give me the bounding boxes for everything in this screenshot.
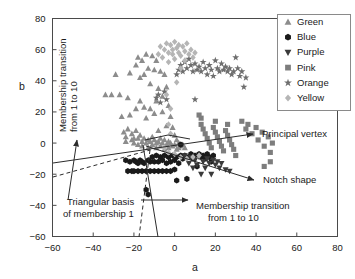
- notch-shape-label: Notch shape: [263, 174, 316, 185]
- y-tick-label: 0: [40, 138, 45, 149]
- data-point: [213, 130, 218, 135]
- data-point: [225, 122, 230, 127]
- data-point: [223, 128, 228, 133]
- membership-transition-bottom-line2: from 1 to 10: [208, 212, 259, 223]
- triangular-basis-line2: of membership 1: [63, 208, 134, 219]
- y-tick-label: −60: [29, 231, 45, 242]
- y-tick-label: 20: [35, 106, 46, 117]
- triangular-basis-line1: Triangular basis: [67, 196, 134, 207]
- y-tick-label: 80: [35, 13, 46, 24]
- x-tick-label: −20: [126, 242, 142, 253]
- data-point: [219, 144, 224, 149]
- data-point: [231, 147, 236, 152]
- legend-label-orange: Orange: [297, 77, 329, 88]
- principal-vertex-label: Principal vertex: [262, 128, 327, 139]
- data-point: [262, 144, 267, 149]
- data-point: [209, 145, 214, 150]
- x-axis-title: a: [192, 261, 198, 273]
- data-point: [262, 164, 267, 169]
- data-point: [201, 127, 206, 132]
- x-tick-label: 80: [332, 242, 343, 253]
- membership-transition-left-line2: from 1 to 10: [68, 81, 79, 132]
- data-point: [254, 125, 259, 130]
- legend-label-purple: Purple: [297, 46, 324, 57]
- data-point: [229, 142, 234, 147]
- y-axis-title: b: [19, 80, 25, 92]
- data-point: [227, 137, 232, 142]
- data-point: [199, 122, 204, 127]
- data-point: [221, 148, 226, 153]
- y-tick-label: 40: [35, 75, 46, 86]
- data-point: [268, 150, 273, 155]
- data-point: [270, 141, 275, 146]
- data-point: [245, 122, 250, 127]
- legend-label-blue: Blue: [297, 31, 316, 42]
- x-tick-label: 60: [291, 242, 302, 253]
- legend-marker-pink: [285, 65, 291, 71]
- legend[interactable]: GreenBluePurplePinkOrangeYellow: [278, 15, 351, 111]
- x-tick-label: 0: [172, 242, 177, 253]
- y-tick-label: −20: [29, 169, 45, 180]
- data-point: [256, 137, 261, 142]
- legend-label-yellow: Yellow: [297, 92, 324, 103]
- legend-label-green: Green: [297, 16, 323, 27]
- data-point: [207, 141, 212, 146]
- data-point: [243, 127, 248, 132]
- data-point: [217, 139, 222, 144]
- data-point: [239, 119, 244, 124]
- data-point: [213, 119, 218, 124]
- membership-transition-bottom-line1: Membership transition: [196, 200, 289, 211]
- x-tick-label: 20: [210, 242, 221, 253]
- x-tick-label: 40: [251, 242, 262, 253]
- x-tick-label: −40: [85, 242, 101, 253]
- data-point: [203, 131, 208, 136]
- y-tick-label: 60: [35, 44, 46, 55]
- chart-canvas: −60−40−20020406080 −60−40−20020406080 a …: [0, 0, 355, 279]
- data-point: [233, 153, 238, 158]
- data-point: [199, 116, 204, 121]
- x-tick-label: −60: [44, 242, 60, 253]
- data-point: [268, 159, 273, 164]
- y-tick-label: −40: [29, 200, 45, 211]
- legend-label-pink: Pink: [297, 62, 316, 73]
- scatter-plot-figure: −60−40−20020406080 −60−40−20020406080 a …: [0, 0, 355, 279]
- membership-transition-left-line1: Membership transition: [57, 39, 68, 132]
- data-point: [211, 125, 216, 130]
